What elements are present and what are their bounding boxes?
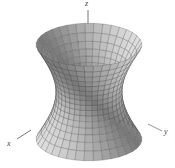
hyperboloid-surface <box>0 0 175 168</box>
surface-patch <box>77 76 85 82</box>
surface-patch <box>93 151 103 161</box>
surface-patch <box>92 116 98 122</box>
surface-patch <box>72 127 79 135</box>
surface-patch <box>80 105 86 111</box>
surface-patch <box>86 87 93 92</box>
surface-patch <box>75 66 85 72</box>
surface-patch <box>85 128 92 135</box>
x-axis <box>17 130 31 139</box>
surface-patch <box>86 101 92 106</box>
surface-patch <box>86 49 93 56</box>
surface-patch <box>75 151 85 161</box>
surface-patch <box>85 82 92 87</box>
surface-patch <box>85 72 93 77</box>
surface-patch <box>84 151 93 161</box>
surface-patch <box>97 104 103 110</box>
y-axis-label: y <box>164 128 168 136</box>
surface-patch <box>92 105 98 111</box>
surface-patch <box>86 105 92 110</box>
surface-patch <box>80 91 86 96</box>
surface-patch <box>69 141 78 151</box>
surface-patch <box>85 135 93 143</box>
surface-patch <box>86 122 93 128</box>
surface-patch <box>92 121 99 128</box>
surface-patch <box>80 110 86 116</box>
surface-patch <box>92 86 99 91</box>
z-axis-label: z <box>85 0 88 8</box>
y-axis <box>148 124 162 131</box>
surface-patch <box>73 120 80 127</box>
surface-patch <box>76 71 85 77</box>
surface-patch <box>93 71 102 77</box>
surface-patch <box>93 41 101 49</box>
surface-patch <box>92 110 98 116</box>
hyperboloid-figure: z x y <box>0 0 175 168</box>
surface-patch <box>93 23 103 33</box>
surface-mesh <box>36 23 141 160</box>
surface-patch <box>74 115 80 122</box>
surface-patch <box>80 115 86 121</box>
surface-patch <box>79 49 86 56</box>
surface-patch <box>93 66 103 72</box>
surface-patch <box>93 33 102 42</box>
x-axis-label: x <box>7 140 11 148</box>
surface-patch <box>86 116 92 122</box>
surface-patch <box>80 100 86 105</box>
surface-patch <box>93 49 100 56</box>
surface-patch <box>92 91 98 96</box>
surface-patch <box>99 134 107 143</box>
surface-patch <box>84 66 93 72</box>
surface-patch <box>86 56 93 62</box>
surface-patch <box>77 33 86 42</box>
surface-patch <box>75 104 81 110</box>
surface-patch <box>100 141 109 151</box>
surface-patch <box>85 23 94 33</box>
surface-patch <box>85 143 93 152</box>
surface-patch <box>92 100 98 105</box>
surface-patch <box>79 121 86 128</box>
surface-patch <box>92 76 100 82</box>
surface-patch <box>92 81 99 86</box>
surface-patch <box>97 109 103 115</box>
surface-patch <box>93 142 102 151</box>
surface-patch <box>78 41 86 49</box>
surface-patch <box>73 57 80 64</box>
surface-patch <box>85 41 93 49</box>
surface-patch <box>78 81 85 86</box>
surface-patch <box>92 128 99 135</box>
surface-patch <box>74 109 80 115</box>
surface-patch <box>76 23 86 33</box>
surface-patch <box>80 56 87 63</box>
surface-patch <box>70 133 78 142</box>
surface-patch <box>98 57 105 64</box>
surface-patch <box>92 56 99 63</box>
surface-patch <box>86 96 92 101</box>
surface-patch <box>98 115 104 122</box>
surface-patch <box>78 128 85 135</box>
surface-patch <box>92 96 98 101</box>
surface-patch <box>86 91 92 96</box>
surface-patch <box>85 77 93 82</box>
surface-patch <box>99 127 106 135</box>
surface-patch <box>76 142 85 151</box>
surface-patch <box>98 120 105 127</box>
surface-patch <box>86 111 92 116</box>
surface-patch <box>80 95 86 100</box>
surface-patch <box>77 134 85 142</box>
surface-patch <box>92 135 100 143</box>
surface-patch <box>79 86 86 91</box>
surface-patch <box>85 33 93 42</box>
